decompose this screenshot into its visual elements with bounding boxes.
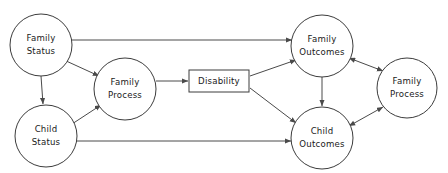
node-label-child-status-line1: Child bbox=[35, 124, 58, 134]
node-label-disability-line1: Disability bbox=[198, 76, 240, 86]
edge-disability-to-child-outcomes bbox=[250, 88, 296, 123]
diagram-canvas: FamilyStatusChildStatusFamilyProcessDisa… bbox=[0, 0, 448, 173]
edge-disability-to-family-outcomes bbox=[250, 60, 296, 76]
node-label-family-process-right-line2: Process bbox=[390, 89, 424, 99]
node-disability[interactable]: Disability bbox=[189, 70, 249, 92]
node-label-family-outcomes-line1: Family bbox=[308, 34, 337, 44]
node-label-child-outcomes-line2: Outcomes bbox=[299, 139, 345, 149]
node-shape-child-outcomes bbox=[291, 107, 353, 169]
edge-child-outcomes-family-process-right bbox=[349, 107, 383, 126]
node-family-process-right[interactable]: FamilyProcess bbox=[377, 58, 437, 118]
edge-family-outcomes-family-process-right bbox=[349, 58, 383, 71]
node-child-status[interactable]: ChildStatus bbox=[15, 105, 77, 167]
node-label-family-status-line2: Status bbox=[27, 46, 56, 56]
node-child-outcomes[interactable]: ChildOutcomes bbox=[291, 107, 353, 169]
node-label-child-outcomes-line1: Child bbox=[311, 126, 334, 136]
node-label-family-status-line1: Family bbox=[27, 33, 56, 43]
edge-child-status-to-family-process bbox=[72, 105, 101, 124]
node-shape-family-process-left bbox=[94, 58, 156, 120]
node-shape-family-status bbox=[10, 14, 72, 76]
node-label-family-process-right-line1: Family bbox=[393, 76, 422, 86]
node-shape-family-outcomes bbox=[291, 15, 353, 77]
edge-family-status-to-family-process bbox=[64, 60, 99, 76]
nodes-layer: FamilyStatusChildStatusFamilyProcessDisa… bbox=[10, 14, 437, 169]
node-label-child-status-line2: Status bbox=[32, 137, 61, 147]
path-diagram: FamilyStatusChildStatusFamilyProcessDisa… bbox=[0, 0, 448, 173]
node-label-family-process-left-line2: Process bbox=[108, 90, 142, 100]
node-shape-child-status bbox=[15, 105, 77, 167]
node-family-outcomes[interactable]: FamilyOutcomes bbox=[291, 15, 353, 77]
edge-family-status-to-child-status bbox=[41, 76, 43, 104]
node-label-family-outcomes-line2: Outcomes bbox=[299, 47, 345, 57]
node-label-family-process-left-line1: Family bbox=[111, 77, 140, 87]
node-family-process-left[interactable]: FamilyProcess bbox=[94, 58, 156, 120]
node-family-status[interactable]: FamilyStatus bbox=[10, 14, 72, 76]
node-shape-family-process-right bbox=[377, 58, 437, 118]
